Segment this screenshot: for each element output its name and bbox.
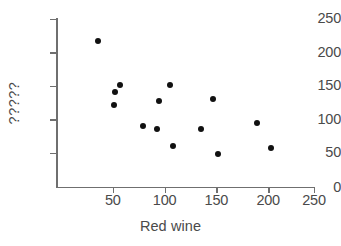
x-tick-label-100: 100 (142, 193, 188, 208)
data-point (170, 143, 176, 149)
data-point (198, 126, 204, 132)
data-point (215, 151, 221, 157)
y-axis-title: ????? (6, 73, 22, 133)
data-point (268, 145, 274, 151)
plot-area (56, 18, 315, 187)
x-tick-label-50: 50 (90, 193, 136, 208)
data-point (111, 102, 117, 108)
data-point (95, 38, 101, 44)
x-tick-label-150: 150 (193, 193, 239, 208)
data-point (112, 89, 118, 95)
x-tick-label-250: 250 (291, 193, 337, 208)
x-tick-label-200: 200 (245, 193, 291, 208)
data-point (210, 96, 216, 102)
data-point (156, 98, 162, 104)
data-point (117, 82, 123, 88)
data-point (140, 123, 146, 129)
data-point (154, 126, 160, 132)
data-point (254, 120, 260, 126)
x-axis-title: Red wine (0, 218, 341, 234)
scatter-chart: 250 200 150 100 50 0 50 100 150 200 250 … (0, 0, 341, 246)
data-point (167, 82, 173, 88)
